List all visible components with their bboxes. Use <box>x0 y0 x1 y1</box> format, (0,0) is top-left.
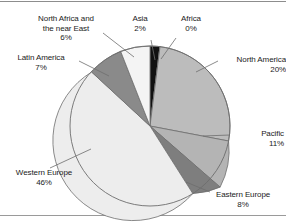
pie-label-north-america-percent: 20% <box>222 65 286 75</box>
pie-label-asia-text: Asia <box>132 14 147 23</box>
pie-label-latin-america-text: Latin America <box>17 53 64 62</box>
pie-label-asia: Asia 2% <box>120 14 160 33</box>
pie-label-pacific: Pacific 11% <box>234 129 284 148</box>
pie-label-pacific-percent: 11% <box>234 139 284 149</box>
pie-label-asia-percent: 2% <box>120 24 160 34</box>
pie-label-north-africa-near-east-line1: North Africa and <box>38 14 94 23</box>
pie-label-pacific-text: Pacific <box>261 129 284 138</box>
pie-label-africa-text: Africa <box>181 14 201 23</box>
pie-slice-north-america <box>150 47 230 141</box>
pie-label-north-africa-near-east-line2: the near East <box>28 24 104 34</box>
pie-label-latin-america: Latin America 7% <box>6 53 76 72</box>
pie-label-latin-america-percent: 7% <box>6 63 76 73</box>
pie-label-eastern-europe: Eastern Europe 8% <box>206 190 280 209</box>
pie-label-western-europe: Western Europe 46% <box>6 168 82 187</box>
pie-label-africa: Africa 0% <box>171 14 211 33</box>
pie-label-eastern-europe-percent: 8% <box>206 200 280 210</box>
pie-label-eastern-europe-text: Eastern Europe <box>216 190 270 199</box>
pie-label-north-africa-near-east: North Africa and the near East 6% <box>28 14 104 43</box>
pie-label-north-africa-near-east-percent: 6% <box>28 33 104 43</box>
pie-chart-figure: Asia 2% Africa 0% North America 20% Paci… <box>0 0 286 224</box>
pie-label-north-america-text: North America <box>237 55 286 64</box>
pie-label-western-europe-percent: 46% <box>6 178 82 188</box>
pie-label-africa-percent: 0% <box>171 24 211 34</box>
pie-label-western-europe-text: Western Europe <box>16 168 72 177</box>
pie-label-north-america: North America 20% <box>222 55 286 74</box>
